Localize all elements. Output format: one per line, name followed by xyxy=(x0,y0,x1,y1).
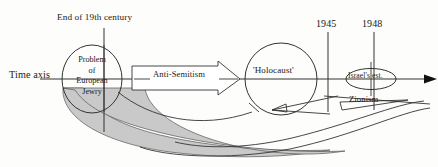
node-european-jewry-label: Problem of European Jewry xyxy=(66,55,118,97)
node-european-jewry-line2: of xyxy=(66,66,118,77)
label-time-axis: Time axis xyxy=(9,69,50,80)
label-end-of-19th-century: End of 19th century xyxy=(57,13,132,23)
label-zionism: Zionism xyxy=(349,95,378,104)
diagram-root: End of 19th century Time axis 1945 1948 … xyxy=(0,0,438,167)
node-european-jewry-line3: European xyxy=(66,76,118,87)
label-year-1948: 1948 xyxy=(362,19,382,30)
label-holocaust: 'Holocaust' xyxy=(253,66,294,76)
node-european-jewry-line4: Jewry xyxy=(66,87,118,98)
connector-holocaust-bottom xyxy=(249,103,259,112)
label-israel-establishment: Israel's est. xyxy=(348,72,383,80)
label-anti-semitism: Anti-Semitism xyxy=(153,70,205,79)
arrow-zionism-line-base xyxy=(272,110,330,114)
time-axis-arrowhead xyxy=(424,75,437,84)
label-year-1945: 1945 xyxy=(316,19,336,30)
node-european-jewry-line1: Problem xyxy=(66,55,118,66)
